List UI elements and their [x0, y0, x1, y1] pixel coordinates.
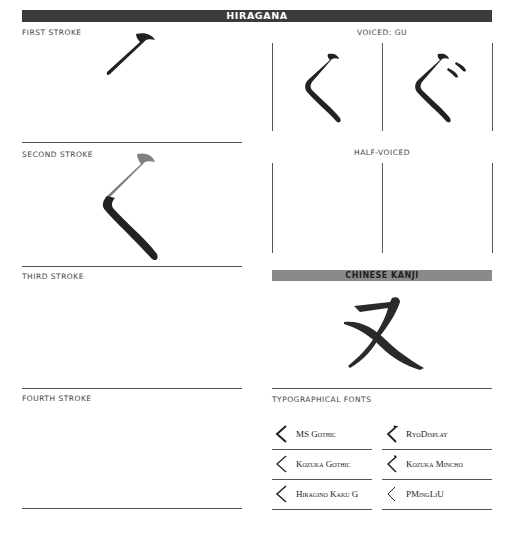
- second-stroke-divider: [22, 266, 242, 267]
- second-stroke-glyph-icon: [95, 150, 165, 265]
- fourth-stroke-label: FOURTH STROKE: [22, 394, 92, 403]
- half-voiced-box-right-edge: [492, 163, 493, 253]
- voiced-box-divider: [382, 43, 383, 131]
- gu-glyph-icon: [412, 52, 472, 124]
- ku-sample-icon: [384, 424, 400, 444]
- font-sample-kozuka-mincho: Kozuka Mincho: [382, 450, 492, 480]
- font-row-underline: [382, 509, 492, 510]
- font-name: Kozuka Gothic: [296, 459, 351, 469]
- half-voiced-box-divider: [382, 163, 383, 253]
- voiced-box-right-edge: [492, 43, 493, 131]
- ku-glyph-icon: [302, 52, 352, 124]
- kanji-you-glyph-icon: [340, 294, 430, 374]
- half-voiced-box-left-edge: [272, 163, 273, 253]
- ku-sample-icon: [274, 454, 290, 474]
- font-name: MS Gothic: [296, 429, 336, 439]
- font-name: RyoDisplay: [406, 429, 448, 439]
- font-sample-kozuka-gothic: Kozuka Gothic: [272, 450, 372, 480]
- font-sample-pmingliu: PMingLiU: [382, 480, 492, 510]
- font-sample-hiragino-kaku-g: Hiragino Kaku G: [272, 480, 372, 510]
- font-name: PMingLiU: [406, 489, 444, 499]
- first-stroke-divider: [22, 142, 242, 143]
- ku-sample-icon: [384, 454, 400, 474]
- third-stroke-label: THIRD STROKE: [22, 272, 84, 281]
- ku-sample-icon: [384, 484, 400, 504]
- fourth-stroke-divider: [22, 508, 242, 509]
- hiragana-header: HIRAGANA: [22, 10, 492, 22]
- second-stroke-label: SECOND STROKE: [22, 150, 93, 159]
- voiced-box-left-edge: [272, 43, 273, 131]
- voiced-label: VOICED: GU: [272, 28, 492, 37]
- first-stroke-glyph-icon: [100, 30, 160, 80]
- chinese-kanji-header: CHINESE KANJI: [272, 270, 492, 281]
- kanji-divider: [272, 388, 492, 389]
- ku-sample-icon: [274, 484, 290, 504]
- font-row-underline: [272, 509, 372, 510]
- font-name: Kozuka Mincho: [406, 459, 463, 469]
- font-sample-ryodisplay: RyoDisplay: [382, 420, 492, 450]
- font-sample-ms-gothic: MS Gothic: [272, 420, 372, 450]
- ku-sample-icon: [274, 424, 290, 444]
- third-stroke-divider: [22, 388, 242, 389]
- half-voiced-label: HALF-VOICED: [272, 148, 492, 157]
- font-name: Hiragino Kaku G: [296, 489, 358, 499]
- typographical-fonts-label: TYPOGRAPHICAL FONTS: [272, 395, 371, 404]
- first-stroke-label: FIRST STROKE: [22, 28, 82, 37]
